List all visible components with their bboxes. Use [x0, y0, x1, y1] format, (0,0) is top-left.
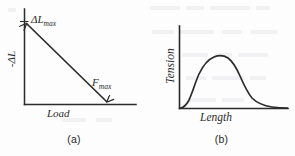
- panel-a-annotation-delta-l-max: ΔLmax: [31, 13, 56, 28]
- panel-a: -ΔL Load ΔLmax Fmax (a): [0, 0, 148, 156]
- delta-l-max-subscript: max: [44, 19, 57, 28]
- panel-a-caption: (a): [0, 133, 148, 145]
- panel-a-plot: [0, 0, 148, 133]
- f-max-base: F: [92, 76, 99, 88]
- panel-b-caption: (b): [148, 133, 295, 145]
- panel-a-y-axis-label: -ΔL: [5, 39, 17, 79]
- panel-a-x-axis-label: Load: [47, 107, 70, 119]
- delta-l-max-base: ΔL: [31, 13, 44, 25]
- figure-container: -ΔL Load ΔLmax Fmax (a) Tension Length (…: [0, 0, 295, 156]
- panel-b: Tension Length (b): [148, 0, 295, 156]
- panel-b-x-axis-label: Length: [200, 111, 232, 123]
- f-max-subscript: max: [99, 82, 112, 91]
- panel-a-annotation-f-max: Fmax: [92, 76, 111, 91]
- panel-b-tension-curve: [181, 56, 288, 108]
- panel-b-y-axis-label: Tension: [164, 35, 176, 97]
